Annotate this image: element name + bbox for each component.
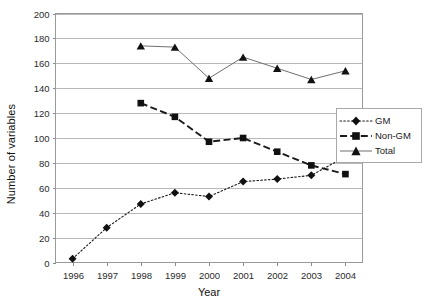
data-point-marker (240, 135, 247, 142)
x-tick-label: 2003 (301, 270, 322, 281)
data-point-marker (342, 171, 349, 178)
x-axis-title: Year (55, 286, 363, 298)
x-tick-label: 1999 (165, 270, 186, 281)
x-tick-label: 1996 (63, 270, 84, 281)
series-gm (69, 153, 350, 263)
series-total (137, 42, 350, 83)
legend-swatch-non-gm (339, 129, 373, 143)
y-tick-label: 200 (34, 9, 50, 20)
y-tick-label: 160 (34, 58, 50, 69)
data-point-marker (205, 193, 213, 201)
y-axis-ticks: 020406080100120140160180200 (34, 9, 56, 269)
data-point-marker (206, 138, 213, 145)
legend-label-total: Total (373, 145, 395, 156)
data-point-marker (172, 114, 179, 121)
y-tick-label: 40 (39, 208, 50, 219)
y-tick-label: 60 (39, 183, 50, 194)
gridlines (56, 15, 363, 239)
x-axis-ticks: 199619971998199920002001200220032004 (63, 263, 356, 281)
legend-swatch-gm (339, 114, 373, 128)
x-tick-label: 2001 (233, 270, 254, 281)
y-tick-label: 20 (39, 233, 50, 244)
chart-legend: GM Non-GM Total (336, 108, 422, 163)
legend-item-gm[interactable]: GM (339, 113, 418, 128)
data-point-marker (137, 200, 145, 208)
legend-label-gm: GM (373, 115, 390, 126)
chart-figure: Number of variables 02040608010012014016… (0, 0, 428, 308)
data-series (69, 42, 350, 263)
x-tick-label: 1998 (131, 270, 152, 281)
data-point-marker (273, 175, 281, 183)
x-tick-label: 1997 (97, 270, 118, 281)
legend-swatch-total (339, 144, 373, 158)
data-point-marker (308, 162, 315, 169)
data-point-marker (341, 67, 349, 74)
data-point-marker (137, 100, 144, 107)
data-point-marker (307, 171, 315, 179)
legend-label-non-gm: Non-GM (373, 130, 411, 141)
legend-item-non-gm[interactable]: Non-GM (339, 128, 418, 143)
data-point-marker (274, 148, 281, 155)
y-tick-label: 0 (44, 258, 49, 269)
data-point-marker (171, 189, 179, 197)
y-tick-label: 80 (39, 158, 50, 169)
data-point-marker (239, 53, 247, 60)
x-tick-label: 2004 (335, 270, 356, 281)
y-tick-label: 140 (34, 83, 50, 94)
y-tick-label: 120 (34, 108, 50, 119)
data-point-marker (273, 65, 281, 72)
data-point-marker (239, 178, 247, 186)
y-tick-label: 100 (34, 133, 50, 144)
legend-item-total[interactable]: Total (339, 143, 418, 158)
y-tick-label: 180 (34, 33, 50, 44)
x-tick-label: 2002 (267, 270, 288, 281)
x-tick-label: 2000 (199, 270, 220, 281)
data-point-marker (307, 76, 315, 83)
